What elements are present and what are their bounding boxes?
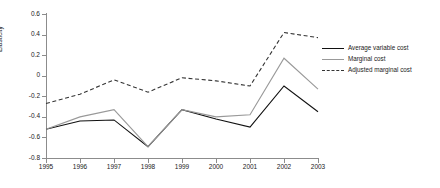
x-tick-label: 1999 <box>167 164 197 171</box>
x-tick-label: 1995 <box>31 164 61 171</box>
x-tick-label: 2003 <box>303 164 333 171</box>
series-line <box>46 33 318 104</box>
chart-legend: Average variable costMarginal costAdjust… <box>322 43 412 76</box>
legend-item-label: Average variable cost <box>348 45 408 51</box>
y-tick-label: -0.4 <box>14 113 40 120</box>
legend-item[interactable]: Adjusted marginal cost <box>322 65 412 76</box>
plot-area <box>46 14 318 158</box>
series-lines <box>46 14 318 158</box>
series-line <box>46 86 318 147</box>
x-tick-label: 2001 <box>235 164 265 171</box>
x-tick-label: 1996 <box>65 164 95 171</box>
legend-item[interactable]: Marginal cost <box>322 54 412 65</box>
legend-item[interactable]: Average variable cost <box>322 43 412 54</box>
y-tick-label: 0.2 <box>14 52 40 59</box>
y-tick-label: 0.6 <box>14 11 40 18</box>
chart-figure: Elasticity 0.60.40.20-0.2-0.4-0.6-0.8 19… <box>0 0 440 188</box>
legend-line-icon <box>322 48 344 49</box>
y-tick-label: -0.6 <box>14 134 40 141</box>
series-line <box>46 58 318 146</box>
x-tick-label: 2002 <box>269 164 299 171</box>
y-tick-label: 0.4 <box>14 31 40 38</box>
x-tick-label: 1998 <box>133 164 163 171</box>
legend-item-label: Adjusted marginal cost <box>348 67 412 73</box>
y-tick-label: -0.8 <box>14 155 40 162</box>
x-tick-label: 2000 <box>201 164 231 171</box>
y-tick-label: 0 <box>14 72 40 79</box>
x-tick-label: 1997 <box>99 164 129 171</box>
legend-line-icon <box>322 59 344 60</box>
y-axis-title: Elasticity <box>0 26 3 52</box>
legend-line-icon <box>322 70 344 71</box>
y-tick-label: -0.2 <box>14 93 40 100</box>
legend-item-label: Marginal cost <box>348 56 385 62</box>
